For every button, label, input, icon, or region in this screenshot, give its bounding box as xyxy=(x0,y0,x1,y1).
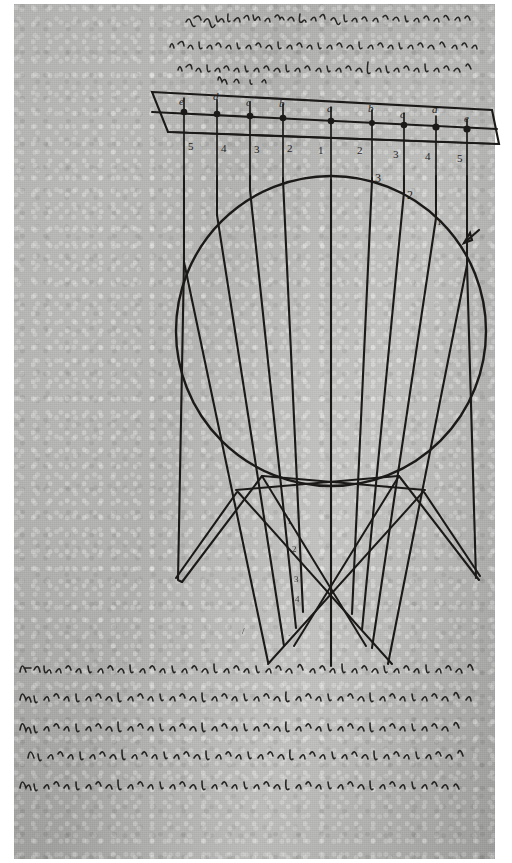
manuscript-page: e d c b a b c d e 5 4 3 2 1 2 3 4 5 3 2 … xyxy=(0,0,512,863)
caption-note xyxy=(0,0,512,863)
